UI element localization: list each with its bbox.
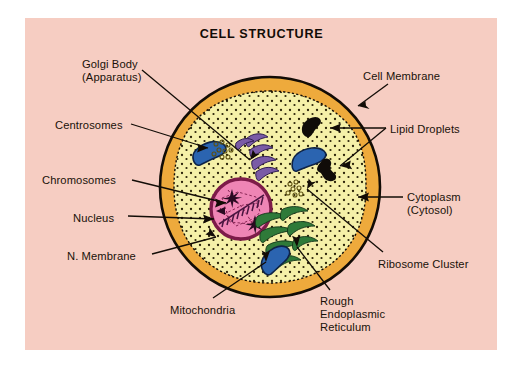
label-n-membrane: N. Membrane — [67, 250, 136, 263]
label-mitochondria: Mitochondria — [170, 304, 235, 317]
nucleus-shape — [211, 179, 271, 239]
label-rough-er: Rough Endoplasmic Reticulum — [320, 295, 385, 335]
label-cell-membrane: Cell Membrane — [363, 70, 440, 83]
label-centrosomes: Centrosomes — [55, 119, 123, 132]
label-chromosomes: Chromosomes — [42, 174, 116, 187]
label-golgi-body: Golgi Body (Apparatus) — [82, 58, 142, 84]
label-nucleus: Nucleus — [73, 212, 114, 225]
label-cytoplasm: Cytoplasm (Cytosol) — [407, 191, 461, 217]
label-lipid-droplets: Lipid Droplets — [390, 123, 460, 136]
cell-structure-figure: CELL STRUCTURE — [0, 0, 523, 371]
label-ribosome-cluster: Ribosome Cluster — [378, 258, 469, 271]
arrowhead-cell-membrane — [358, 101, 370, 109]
leader-cell-membrane — [358, 84, 388, 106]
